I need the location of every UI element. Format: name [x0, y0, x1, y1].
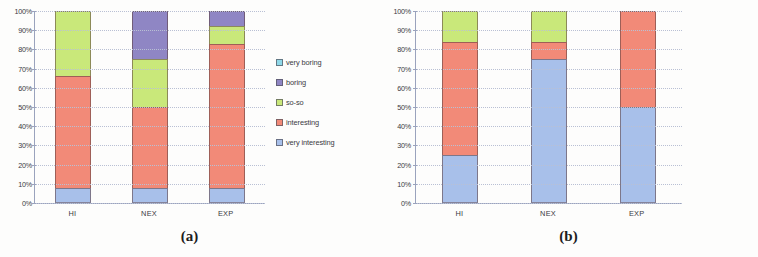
gridline: [416, 49, 682, 50]
axis-tick-mark: [32, 69, 36, 70]
gridline: [416, 88, 682, 89]
gridline: [35, 49, 265, 50]
gridline: [416, 69, 682, 70]
axis-tick-mark: [413, 49, 417, 50]
y-axis-tick-a: 20%: [2, 160, 32, 169]
legend-swatch-icon: [276, 139, 283, 146]
axis-tick-mark: [32, 30, 36, 31]
legend-item[interactable]: very boring: [276, 58, 376, 67]
axis-tick-mark: [413, 126, 417, 127]
figure-container: 100%90%80%70%60%50%40%30%20%10%0% HINEXE…: [0, 0, 758, 257]
legend-label: interesting: [286, 118, 319, 127]
panel-caption-a-text: (a): [181, 228, 199, 244]
panel-caption-b-text: (b): [559, 228, 577, 244]
legend-item[interactable]: interesting: [276, 118, 376, 127]
gridline: [35, 11, 265, 12]
axis-tick-mark: [32, 11, 36, 12]
plot-area-b: [415, 11, 682, 204]
y-axis-tick-a: 100%: [2, 7, 32, 16]
axis-tick-mark: [32, 165, 36, 166]
plot-wrapper-b: 100%90%80%70%60%50%40%30%20%10%0% HINEXE…: [379, 0, 758, 225]
bar-segment[interactable]: [55, 11, 91, 76]
gridline: [416, 203, 682, 204]
gridline: [35, 126, 265, 127]
axis-tick-mark: [32, 126, 36, 127]
y-axis-tick-b: 10%: [381, 179, 411, 188]
bar-segment[interactable]: [132, 188, 168, 203]
x-axis-labels-a: HINEXEXP: [34, 206, 264, 220]
y-axis-tick-a: 40%: [2, 122, 32, 131]
x-axis-label-exp: EXP: [592, 209, 681, 218]
y-axis-tick-b: 20%: [381, 160, 411, 169]
y-axis-tick-a: 50%: [2, 103, 32, 112]
gridline: [35, 107, 265, 108]
bar-segment[interactable]: [442, 155, 478, 203]
bar-segment[interactable]: [55, 76, 91, 187]
axis-tick-mark: [413, 69, 417, 70]
bar-segment[interactable]: [531, 59, 567, 203]
axis-tick-mark: [32, 88, 36, 89]
bar-segment[interactable]: [132, 59, 168, 107]
axis-tick-mark: [32, 49, 36, 50]
gridline: [35, 145, 265, 146]
bar-segment[interactable]: [209, 26, 245, 43]
bar-segment[interactable]: [620, 11, 656, 107]
legend-item[interactable]: very interesting: [276, 138, 376, 147]
y-axis-tick-b: 30%: [381, 141, 411, 150]
axis-tick-mark: [413, 11, 417, 12]
axis-tick-mark: [413, 30, 417, 31]
gridline: [416, 11, 682, 12]
gridline: [416, 30, 682, 31]
bar-segment[interactable]: [442, 42, 478, 155]
bar-segment[interactable]: [55, 188, 91, 203]
gridline: [416, 145, 682, 146]
gridline: [35, 88, 265, 89]
axis-tick-mark: [32, 145, 36, 146]
x-axis-labels-b: HINEXEXP: [415, 206, 681, 220]
axis-tick-mark: [413, 145, 417, 146]
gridline: [35, 30, 265, 31]
bar-segment[interactable]: [132, 107, 168, 188]
x-axis-label-nex: NEX: [111, 209, 188, 218]
x-axis-label-nex: NEX: [504, 209, 593, 218]
legend-label: very boring: [286, 58, 321, 67]
bar-segment[interactable]: [209, 44, 245, 188]
plot-wrapper-a: 100%90%80%70%60%50%40%30%20%10%0% HINEXE…: [0, 0, 379, 225]
y-axis-tick-b: 100%: [381, 7, 411, 16]
gridline: [35, 165, 265, 166]
x-axis-label-hi: HI: [415, 209, 504, 218]
axis-tick-mark: [413, 107, 417, 108]
plot-area-a: [34, 11, 265, 204]
bar-segment[interactable]: [531, 11, 567, 42]
bar-segment[interactable]: [620, 107, 656, 203]
x-axis-label-exp: EXP: [187, 209, 264, 218]
y-axis-tick-b: 50%: [381, 103, 411, 112]
legend-item[interactable]: boring: [276, 78, 376, 87]
axis-tick-mark: [413, 88, 417, 89]
y-axis-tick-a: 90%: [2, 26, 32, 35]
bar-segment[interactable]: [442, 11, 478, 42]
chart-panel-a: 100%90%80%70%60%50%40%30%20%10%0% HINEXE…: [0, 0, 379, 257]
bar-segment[interactable]: [132, 11, 168, 59]
bar-segment[interactable]: [209, 188, 245, 203]
gridline: [416, 184, 682, 185]
y-axis-tick-a: 70%: [2, 64, 32, 73]
gridline: [35, 184, 265, 185]
y-axis-tick-a: 30%: [2, 141, 32, 150]
x-axis-label-hi: HI: [34, 209, 111, 218]
gridline: [35, 203, 265, 204]
y-axis-tick-a: 60%: [2, 83, 32, 92]
legend-label: very interesting: [286, 138, 335, 147]
axis-tick-mark: [32, 107, 36, 108]
panel-caption-a: (a): [0, 228, 379, 245]
legend-item[interactable]: so-so: [276, 98, 376, 107]
axis-tick-mark: [413, 203, 417, 204]
panel-caption-b: (b): [379, 228, 758, 245]
legend-swatch-icon: [276, 99, 283, 106]
legend-swatch-icon: [276, 79, 283, 86]
axis-tick-mark: [32, 184, 36, 185]
legend-label: boring: [286, 78, 306, 87]
bar-segment[interactable]: [209, 11, 245, 26]
y-axis-labels-a: 100%90%80%70%60%50%40%30%20%10%0%: [2, 5, 32, 209]
gridline: [416, 165, 682, 166]
